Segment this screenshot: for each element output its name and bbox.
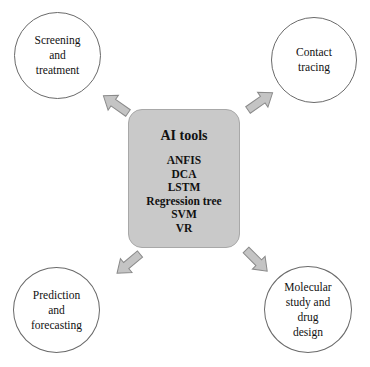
node-label: Molecular study and drug design [284, 280, 331, 340]
ai-tool-item: DCA [129, 168, 239, 182]
node-prediction-forecasting: Prediction and forecasting [13, 267, 100, 353]
arrow-to-molecular [240, 244, 274, 278]
ai-tool-item: VR [129, 222, 239, 236]
ai-tool-item: SVM [129, 208, 239, 222]
node-label: Screening and treatment [35, 33, 81, 78]
node-label: Prediction and forecasting [31, 288, 82, 333]
ai-tools-box: AI tools ANFIS DCA LSTM Regression tree … [128, 109, 240, 248]
node-molecular-drug-design: Molecular study and drug design [264, 266, 352, 353]
arrow-to-contact-tracing [243, 85, 278, 117]
arrow-to-screening [98, 88, 133, 120]
ai-tool-item: Regression tree [129, 195, 239, 209]
node-label: Contact tracing [296, 45, 332, 75]
arrow-to-prediction [111, 247, 146, 280]
ai-tool-item: LSTM [129, 181, 239, 195]
ai-tools-title: AI tools [129, 128, 239, 144]
ai-tools-list: ANFIS DCA LSTM Regression tree SVM VR [129, 154, 239, 235]
node-contact-tracing: Contact tracing [271, 17, 357, 103]
ai-tool-item: ANFIS [129, 154, 239, 168]
node-screening-treatment: Screening and treatment [14, 12, 101, 99]
